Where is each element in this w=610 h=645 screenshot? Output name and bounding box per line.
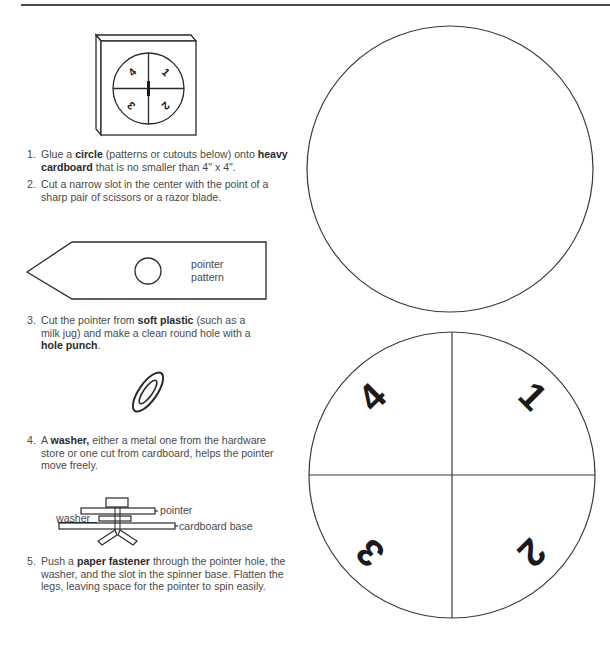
step-text: Cut a narrow slot in the center with the… <box>41 178 272 203</box>
step-text-run: that is no smaller than 4" x 4". <box>93 161 236 173</box>
step-text: Push a paper fastener through the pointe… <box>41 555 289 593</box>
step-4: 4. A washer, either a metal one from the… <box>27 434 289 472</box>
pointer-pattern-label-line1: pointer <box>191 258 223 270</box>
step-3: 3. Cut the pointer from soft plastic (su… <box>27 314 259 352</box>
step-text-emphasis: paper fastener <box>77 555 150 567</box>
step-text-run: . <box>98 339 101 351</box>
step-number: 4. <box>27 434 41 447</box>
fastener-leg-left <box>98 530 117 545</box>
step-text-run: Cut the pointer from <box>41 314 138 326</box>
fastener-leg-right <box>118 530 137 545</box>
cutout-number-3: 3 <box>348 531 393 576</box>
step-number: 2. <box>27 178 41 191</box>
step-number: 5. <box>27 555 41 568</box>
step-text-run: Cut a narrow slot in the center with the… <box>41 178 268 203</box>
step-text-emphasis: soft plastic <box>138 314 194 326</box>
step-5: 5. Push a paper fastener through the poi… <box>27 555 289 593</box>
step-text-emphasis: circle <box>75 148 103 160</box>
numbered-circle-cutout: 4 1 2 3 <box>309 332 595 618</box>
assembly-washer-label: washer <box>56 512 90 524</box>
step-2: 2. Cut a narrow slot in the center with … <box>27 178 272 203</box>
step-number: 3. <box>27 314 41 327</box>
cutout-number-2: 2 <box>510 531 555 576</box>
step-text: Cut the pointer from soft plastic (such … <box>41 314 259 352</box>
step-1: 1. Glue a circle (patterns or cutouts be… <box>27 148 299 173</box>
fastener-head <box>106 498 128 507</box>
assembly-base-label: cardboard base <box>179 520 253 532</box>
step-number: 1. <box>27 148 41 161</box>
step-text-run: Glue a <box>41 148 75 160</box>
pointer-pattern-label-line2: pattern <box>191 271 224 283</box>
pointer-hole <box>135 258 161 284</box>
assembly-pointer-label: pointer <box>160 504 192 516</box>
step-text-emphasis: washer, <box>50 434 89 446</box>
cutout-number-1: 1 <box>511 374 556 419</box>
pointer-bar <box>81 508 155 514</box>
washer-illustration <box>127 368 168 416</box>
step-text: A washer, either a metal one from the ha… <box>41 434 289 472</box>
step-text-run: (patterns or cutouts below) onto <box>103 148 258 160</box>
step-text-run: Push a <box>41 555 77 567</box>
step-text: Glue a circle (patterns or cutouts below… <box>41 148 299 173</box>
cutout-number-4: 4 <box>350 375 395 420</box>
step-text-emphasis: hole punch <box>41 339 98 351</box>
pointer-pattern-illustration <box>27 242 266 299</box>
spinner-board-illustration: 4 1 2 3 <box>96 35 196 135</box>
slot-mark <box>147 81 150 96</box>
blank-circle-cutout <box>307 26 593 312</box>
